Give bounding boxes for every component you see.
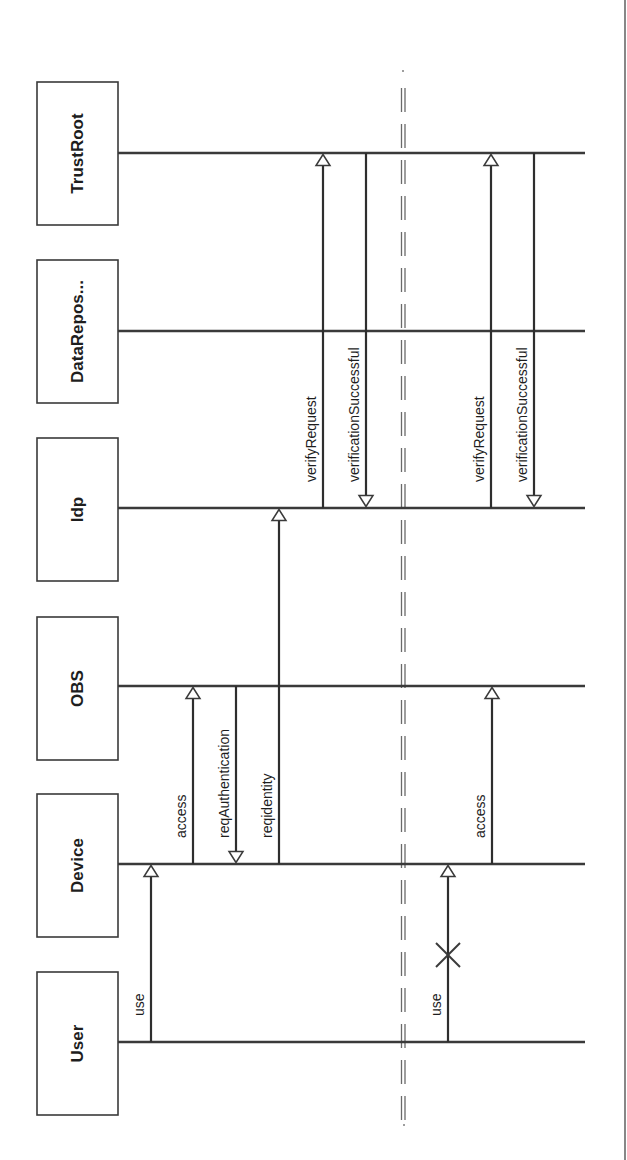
participant-label: TrustRoot (68, 113, 87, 194)
message-m3[interactable]: reqAuthentication (216, 686, 243, 863)
message-label: use (131, 993, 147, 1016)
message-label: access (173, 794, 189, 838)
message-m8[interactable]: access (472, 688, 499, 865)
message-label: verificationSuccessful (346, 347, 362, 482)
message-label: verifyRequest (471, 396, 487, 482)
message-m1[interactable]: use (131, 866, 158, 1043)
arrowhead-icon (484, 155, 498, 166)
lifelines (118, 153, 585, 1042)
message-label: reqAuthentication (216, 729, 232, 838)
arrowhead-icon (441, 866, 455, 877)
arrowhead-icon (316, 155, 330, 166)
participant-label: User (68, 1024, 87, 1062)
participant-label: OBS (68, 670, 87, 707)
participants: TrustRootDataRepos...IdpOBSDeviceUser (37, 82, 118, 1115)
arrowhead-icon (186, 688, 200, 699)
arrowhead-icon (272, 510, 286, 521)
participant-label: Device (68, 838, 87, 893)
message-label: access (472, 794, 488, 838)
message-m7[interactable]: use (428, 866, 460, 1043)
message-label: reqidentity (259, 773, 275, 838)
arrowhead-icon (527, 496, 541, 507)
participant-trustroot[interactable]: TrustRoot (37, 82, 118, 225)
arrowhead-icon (485, 688, 499, 699)
participant-device[interactable]: Device (37, 794, 118, 937)
participant-idp[interactable]: Idp (37, 438, 118, 581)
participant-label: Idp (68, 497, 87, 523)
participant-datarepos[interactable]: DataRepos... (37, 260, 118, 403)
sequence-diagram: TrustRootDataRepos...IdpOBSDeviceUser us… (0, 0, 627, 1160)
participant-label: DataRepos... (68, 280, 87, 383)
arrowhead-icon (144, 866, 158, 877)
message-label: verificationSuccessful (514, 347, 530, 482)
arrowhead-icon (229, 852, 243, 863)
arrowhead-icon (359, 496, 373, 507)
participant-user[interactable]: User (37, 972, 118, 1115)
message-m2[interactable]: access (173, 688, 200, 865)
messages: useaccessreqAuthenticationreqidentityver… (131, 153, 541, 1042)
message-label: use (428, 993, 444, 1016)
participant-obs[interactable]: OBS (37, 617, 118, 760)
phase-separator (402, 70, 406, 1130)
message-label: verifyRequest (303, 396, 319, 482)
